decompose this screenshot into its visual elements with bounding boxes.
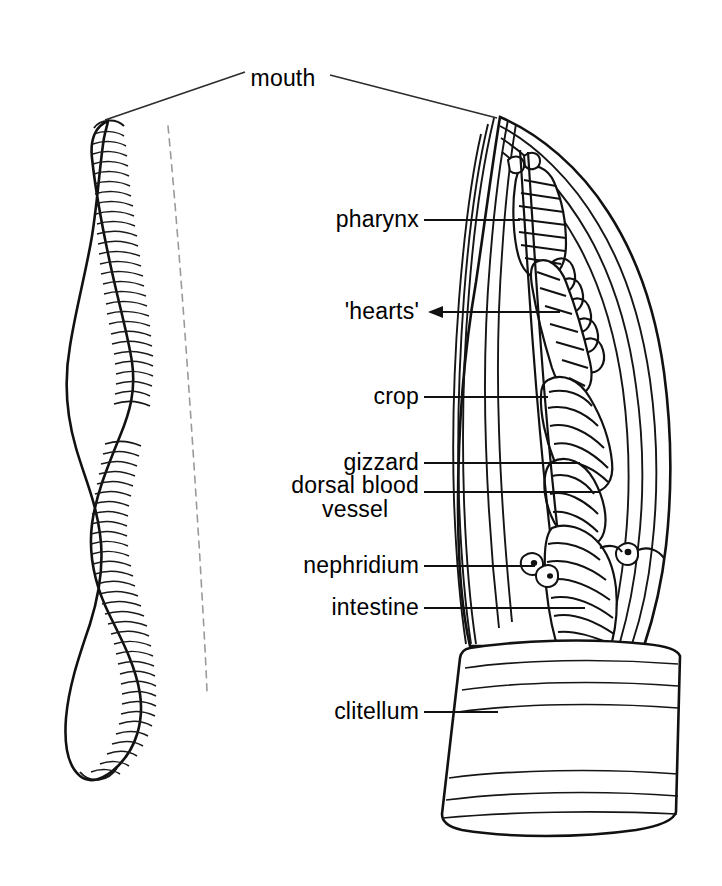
- label-crop: crop: [373, 385, 419, 409]
- label-nephridium: nephridium: [303, 554, 419, 578]
- earthworm-anatomy-figure: mouth pharynx 'hearts' crop gizzard dors…: [0, 0, 722, 886]
- dissection-figure: [0, 0, 722, 886]
- label-dorsal-blood-vessel: dorsal blood vessel: [291, 474, 419, 522]
- label-dorsal-blood-vessel-line1: dorsal blood: [291, 474, 419, 498]
- organ-clitellum: [442, 641, 680, 836]
- label-pharynx: pharynx: [336, 208, 419, 232]
- hearts-leader-arrowhead: [428, 306, 443, 318]
- label-intestine: intestine: [332, 596, 419, 620]
- label-hearts: 'hearts': [345, 300, 419, 324]
- leader-mouth-right: [330, 75, 497, 118]
- label-dorsal-blood-vessel-line2: vessel: [291, 498, 419, 522]
- label-clitellum: clitellum: [334, 700, 419, 724]
- label-mouth: mouth: [251, 67, 316, 91]
- leader-mouth-left: [105, 72, 245, 120]
